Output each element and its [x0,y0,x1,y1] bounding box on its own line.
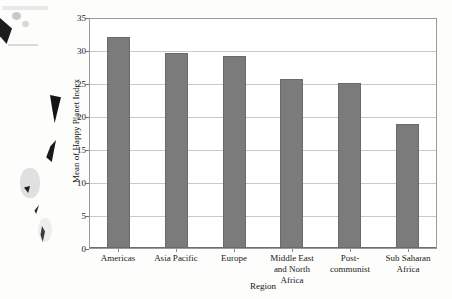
plot-area [89,18,437,249]
scan-artifact-blob-4 [38,218,52,242]
bar-slot-sub-saharan-africa [378,19,436,248]
scan-artifact-blob-2 [22,21,29,27]
scan-artifact-curl [40,226,45,242]
x-axis-label: Region [89,281,437,291]
y-axis-tick-labels: 35 30 25 20 15 10 5 0 [64,18,86,249]
bar-americas[interactable] [107,37,130,248]
bar-europe[interactable] [223,56,246,248]
scan-artifact-blob-1 [12,12,21,20]
bar-slot-post-communist [321,19,379,248]
bar-slot-middle-east-north-africa [263,19,321,248]
scan-artifact-blob-3 [20,168,40,198]
scan-artifact-dot-1 [24,186,30,193]
scanned-page: Mean of Happy Planet Index 35 30 25 20 1… [0,0,452,299]
bar-post-communist[interactable] [338,83,361,248]
scan-artifact-streak-1 [8,44,38,46]
bar-slot-asia-pacific [148,19,206,248]
bar-series [90,19,436,248]
bar-middle-east-north-africa[interactable] [280,79,303,248]
bar-asia-pacific[interactable] [165,53,188,248]
scan-artifact-top [2,6,48,10]
scan-artifact-streak-2 [32,205,39,214]
bar-sub-saharan-africa[interactable] [396,124,419,248]
scan-artifact-wedge-1 [0,18,12,44]
bar-slot-americas [90,19,148,248]
bar-slot-europe [205,19,263,248]
